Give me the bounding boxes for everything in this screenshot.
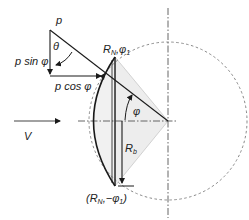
label-p-sin-phi: p sin φ <box>14 55 48 67</box>
label-theta: θ <box>53 40 59 52</box>
theta-arc <box>56 52 72 65</box>
diagram-canvas: p θ p sin φ p cos φ V φ Rb RN,φ1 (RN,−φ1… <box>0 0 249 220</box>
label-velocity: V <box>24 130 33 142</box>
label-p: p <box>55 14 62 26</box>
shaded-cone-region <box>115 57 168 186</box>
label-phi: φ <box>133 105 140 117</box>
label-bottom-point: (RN,−φ1) <box>86 192 127 205</box>
label-top-point: RN,φ1 <box>103 43 130 56</box>
label-p-cos-phi: p cos φ <box>54 80 92 92</box>
